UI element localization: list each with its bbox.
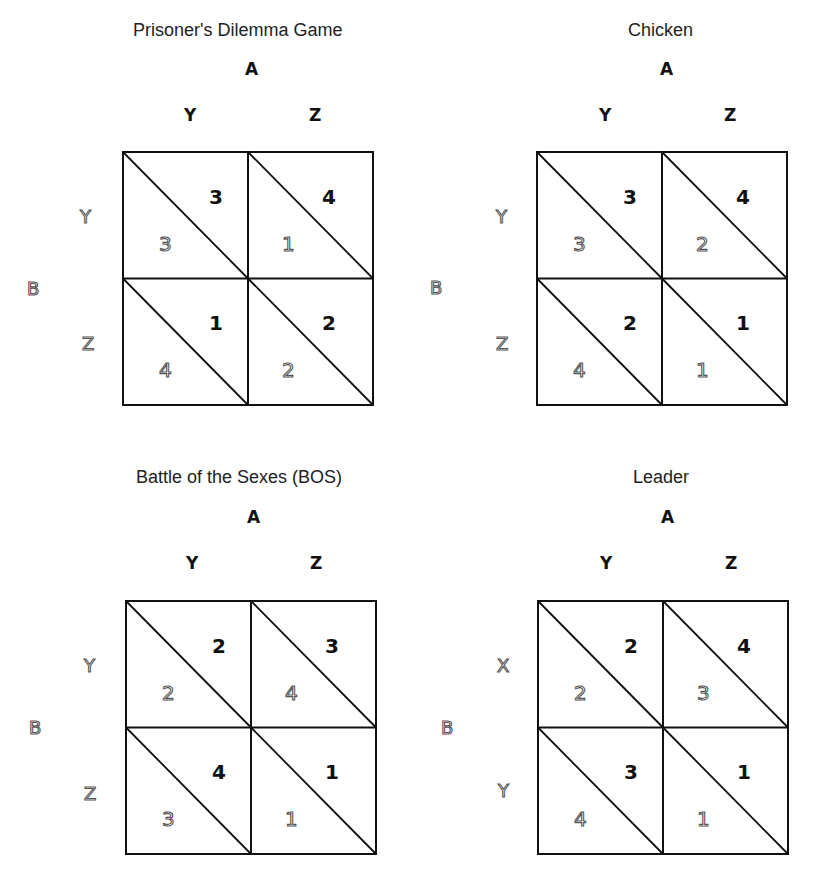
row-label-1: Y: [496, 206, 507, 227]
payoff-b: 3: [159, 232, 172, 256]
payoff-matrix: 3 3 4 1 1 4 2 2: [123, 152, 373, 405]
row-label-1: Y: [80, 206, 91, 227]
payoff-b: 4: [159, 358, 172, 382]
payoff-b: 3: [697, 681, 710, 705]
payoff-b: 1: [697, 807, 710, 831]
payoff-a: 1: [736, 311, 750, 335]
payoff-a: 2: [623, 311, 637, 335]
payoff-a: 2: [624, 634, 638, 658]
column-label-2: Z: [309, 105, 321, 125]
payoff-a: 3: [209, 185, 223, 209]
payoff-a: 1: [209, 311, 223, 335]
payoff-a: 2: [322, 311, 336, 335]
payoff-a: 3: [325, 634, 339, 658]
payoff-b: 2: [282, 358, 295, 382]
game-title: Battle of the Sexes (BOS): [136, 467, 342, 488]
payoff-matrix: 2 2 3 4 4 3 1 1: [126, 601, 376, 854]
payoff-a: 4: [322, 185, 336, 209]
cell-row2-col2: 2 2: [248, 279, 373, 406]
payoff-b: 1: [696, 358, 709, 382]
payoff-a: 4: [736, 185, 750, 209]
payoff-b: 3: [162, 807, 175, 831]
cell-row2-col2: 1 1: [663, 728, 788, 855]
payoff-b: 2: [574, 681, 587, 705]
game-title: Chicken: [628, 20, 693, 41]
column-label-2: Z: [725, 553, 737, 573]
payoff-b: 4: [285, 681, 298, 705]
payoff-a: 1: [325, 760, 339, 784]
cell-row2-col1: 1 4: [123, 279, 248, 406]
cell-row1-col1: 3 3: [537, 152, 662, 279]
row-label-2: Y: [498, 780, 509, 801]
payoff-a: 4: [212, 760, 226, 784]
row-player-label: B: [430, 277, 442, 298]
column-label-2: Z: [724, 105, 736, 125]
payoff-b: 2: [162, 681, 175, 705]
payoff-a: 2: [212, 634, 226, 658]
cell-row1-col2: 4 1: [248, 152, 373, 279]
payoff-matrix: 3 3 4 2 2 4 1 1: [537, 152, 787, 405]
payoff-b: 4: [574, 807, 587, 831]
column-label-1: Y: [184, 105, 196, 125]
column-player-label: A: [660, 59, 673, 79]
row-player-label: B: [441, 717, 453, 738]
column-label-2: Z: [310, 553, 322, 573]
game-title: Prisoner's Dilemma Game: [133, 20, 343, 41]
cell-row1-col2: 4 3: [663, 601, 788, 728]
game-leader: Leader A Y Z B X Y 2 2 4 3 3 4 1 1: [411, 440, 822, 880]
row-player-label: B: [29, 717, 41, 738]
cell-row1-col1: 2 2: [126, 601, 251, 728]
row-player-label: B: [27, 278, 39, 299]
payoff-b: 4: [573, 358, 586, 382]
payoff-b: 1: [285, 807, 298, 831]
cell-row2-col2: 1 1: [662, 279, 787, 406]
column-player-label: A: [247, 507, 260, 527]
row-label-2: Z: [496, 333, 508, 354]
cell-row1-col1: 3 3: [123, 152, 248, 279]
cell-row1-col2: 4 2: [662, 152, 787, 279]
payoff-b: 2: [696, 232, 709, 256]
row-label-1: Y: [84, 655, 95, 676]
game-title: Leader: [633, 467, 689, 488]
payoff-a: 1: [737, 760, 751, 784]
game-prisoners-dilemma: Prisoner's Dilemma Game A Y Z B Y Z 3 3 …: [0, 0, 411, 440]
payoff-b: 3: [573, 232, 586, 256]
payoff-a: 3: [624, 760, 638, 784]
game-battle-of-the-sexes: Battle of the Sexes (BOS) A Y Z B Y Z 2 …: [0, 440, 411, 880]
row-label-2: Z: [82, 333, 94, 354]
cell-row2-col1: 4 3: [126, 728, 251, 855]
cell-row2-col1: 3 4: [538, 728, 663, 855]
column-label-1: Y: [186, 553, 198, 573]
cell-row1-col1: 2 2: [538, 601, 663, 728]
column-label-1: Y: [600, 553, 612, 573]
payoff-a: 3: [623, 185, 637, 209]
cell-row2-col2: 1 1: [251, 728, 376, 855]
row-label-1: X: [497, 655, 509, 676]
payoff-a: 4: [737, 634, 751, 658]
payoff-matrix: 2 2 4 3 3 4 1 1: [538, 601, 788, 854]
payoff-b: 1: [282, 232, 295, 256]
cell-row1-col2: 3 4: [251, 601, 376, 728]
row-label-2: Z: [84, 783, 96, 804]
game-chicken: Chicken A Y Z B Y Z 3 3 4 2 2 4 1 1: [411, 0, 822, 440]
column-label-1: Y: [599, 105, 611, 125]
cell-row2-col1: 2 4: [537, 279, 662, 406]
column-player-label: A: [661, 507, 674, 527]
column-player-label: A: [245, 59, 258, 79]
